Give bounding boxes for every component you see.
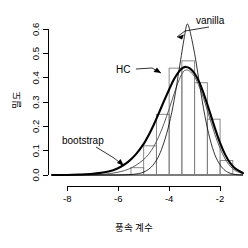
y-axis-title: 밀도 [11,91,22,109]
y-tick-label: 0.5 [30,47,41,60]
y-tick-label: 0.0 [30,168,41,181]
annotation-label-bootstrap: bootstrap [62,135,104,146]
y-tick-label: 0.1 [30,144,41,157]
y-tick-label: 0.2 [30,120,41,133]
annotation-hc: HC [116,64,161,75]
y-tick-label: 0.4 [30,71,41,84]
plot-canvas: 0.00.10.20.30.40.50.6 -8-6-4-2 vanilla [0,0,248,248]
x-tick-label: -6 [114,193,122,204]
hc-density-curve [52,67,243,175]
y-tick-label: 0.6 [30,23,41,36]
vanilla-density-curve [52,24,243,175]
x-tick-label: -2 [216,193,224,204]
y-axis-tick-labels: 0.00.10.20.30.40.50.6 [30,23,41,182]
histogram-bar [144,146,157,175]
annotation-bootstrap: bootstrap [62,135,124,166]
hc-arrow-head [154,68,162,74]
y-tick-label: 0.3 [30,96,41,109]
density-plot-figure: 0.00.10.20.30.40.50.6 -8-6-4-2 vanilla [0,0,248,248]
x-tick-label: -4 [165,193,173,204]
x-axis-title: 풍속 계수 [115,222,154,233]
annotation-label-vanilla: vanilla [196,15,225,26]
x-axis-tick-labels: -8-6-4-2 [63,193,224,204]
bootstrap-arrow-head [117,159,124,166]
vanilla-arrow-head [177,35,184,40]
histogram-bar [182,61,195,175]
plot-area [52,24,243,175]
histogram-bars [131,61,233,175]
y-axis-ticks [43,29,48,175]
y-axis: 0.00.10.20.30.40.50.6 [30,23,48,182]
bootstrap-density-curve [52,70,243,175]
x-axis: -8-6-4-2 [63,186,224,204]
x-axis-ticks [67,186,220,191]
x-tick-label: -8 [63,193,71,204]
histogram-bar [156,114,169,175]
annotation-label-hc: HC [116,64,130,75]
